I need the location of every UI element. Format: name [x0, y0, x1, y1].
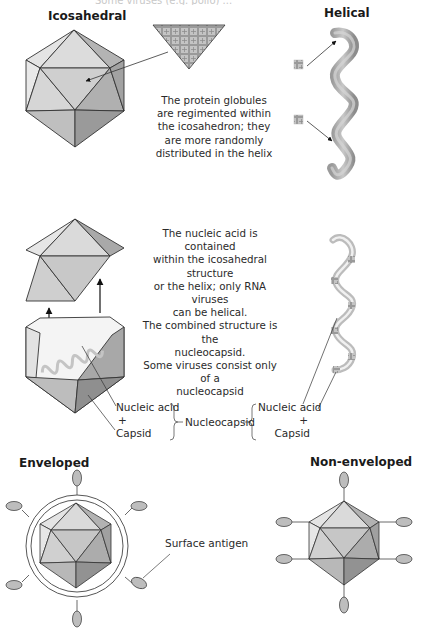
label-capsid-right: Capsid — [258, 427, 310, 440]
label-plus-left: + — [116, 414, 172, 427]
label-surface-antigen: Surface antigen — [165, 537, 248, 550]
label-nucleocapsid: Nucleocapsid — [185, 416, 255, 429]
caption-line: within the icosahedral structure — [140, 253, 280, 279]
icosahedron-top — [26, 30, 124, 147]
caption-line: Some viruses consist only of a — [140, 359, 280, 385]
caption-line: nucleocapsid — [140, 385, 280, 398]
caption-nucleic-acid: The nucleic acid is contained within the… — [140, 227, 280, 399]
caption-protein-globules: The protein globules are regimented with… — [155, 94, 273, 160]
label-capsid-left: Capsid — [116, 427, 172, 440]
capsomere-triangle — [153, 25, 225, 69]
label-plus-right: + — [258, 414, 310, 427]
enveloped-virus — [6, 470, 170, 627]
icosahedron-base — [26, 317, 124, 413]
caption-line: The nucleic acid is contained — [140, 227, 280, 253]
caption-line: The combined structure is the — [140, 319, 280, 345]
arrow-helix-1 — [307, 41, 336, 66]
label-nucleic-acid-right: Nucleic acid — [258, 401, 310, 414]
arrow-helix-2 — [307, 121, 332, 141]
caption-line: can be helical. — [140, 306, 280, 319]
capsomere-icon-2 — [294, 115, 303, 124]
label-right-group: Nucleic acid + Capsid — [258, 401, 310, 440]
non-enveloped-virus — [276, 472, 412, 613]
label-left-group: Nucleic acid + Capsid — [116, 401, 172, 440]
icosahedron-cap — [26, 219, 124, 301]
helix-top — [332, 33, 354, 175]
caption-line: nucleocapsid. — [140, 346, 280, 359]
capsomere-icon-1 — [294, 60, 303, 69]
surface-antigen-leader — [143, 554, 170, 578]
caption-line: or the helix; only RNA viruses — [140, 280, 280, 306]
helix-nucleocapsid — [331, 238, 355, 373]
label-nucleic-acid-left: Nucleic acid — [116, 401, 172, 414]
